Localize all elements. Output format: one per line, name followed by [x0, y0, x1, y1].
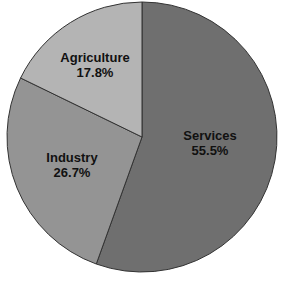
slice-value-industry: 26.7%: [46, 165, 97, 180]
pie-chart: [0, 0, 291, 284]
slice-label-industry: Industry 26.7%: [46, 150, 97, 180]
slice-name-industry: Industry: [46, 150, 97, 165]
slice-value-agriculture: 17.8%: [60, 65, 129, 80]
slice-label-services: Services 55.5%: [183, 128, 237, 158]
slice-name-agriculture: Agriculture: [60, 50, 129, 65]
slice-value-services: 55.5%: [183, 143, 237, 158]
slice-label-agriculture: Agriculture 17.8%: [60, 50, 129, 80]
slice-name-services: Services: [183, 128, 237, 143]
